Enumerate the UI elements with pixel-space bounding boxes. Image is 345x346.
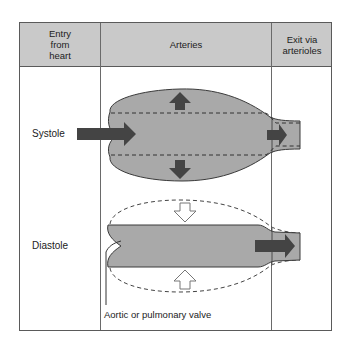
valve-annotation: Aortic or pulmonary valve [104, 309, 211, 320]
vessel-illustration [0, 0, 345, 346]
recoil-down-arrow-icon [174, 203, 196, 222]
row-label-diastole: Diastole [32, 240, 68, 251]
systole-inflow-arrow-icon [77, 122, 136, 146]
row-label-systole: Systole [32, 128, 65, 139]
arterial-flow-diagram: Entry from heart Arteries Exit via arter… [0, 0, 345, 346]
recoil-up-arrow-icon [174, 270, 196, 289]
